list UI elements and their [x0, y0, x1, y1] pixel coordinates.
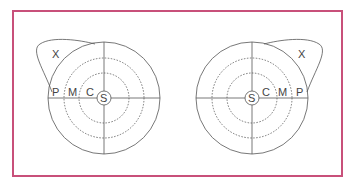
- right-label-m: M: [278, 86, 287, 98]
- left-label-m: M: [68, 86, 77, 98]
- eye-diagrams: S C M P X S C M P X: [0, 0, 356, 190]
- right-label-s: S: [248, 92, 255, 104]
- left-label-p: P: [52, 86, 59, 98]
- right-label-c: C: [262, 86, 270, 98]
- left-extra-lobe: [37, 39, 95, 92]
- right-label-p: P: [296, 86, 303, 98]
- left-label-x: X: [52, 48, 60, 60]
- right-label-x: X: [298, 48, 306, 60]
- left-label-s: S: [100, 92, 107, 104]
- left-label-c: C: [86, 86, 94, 98]
